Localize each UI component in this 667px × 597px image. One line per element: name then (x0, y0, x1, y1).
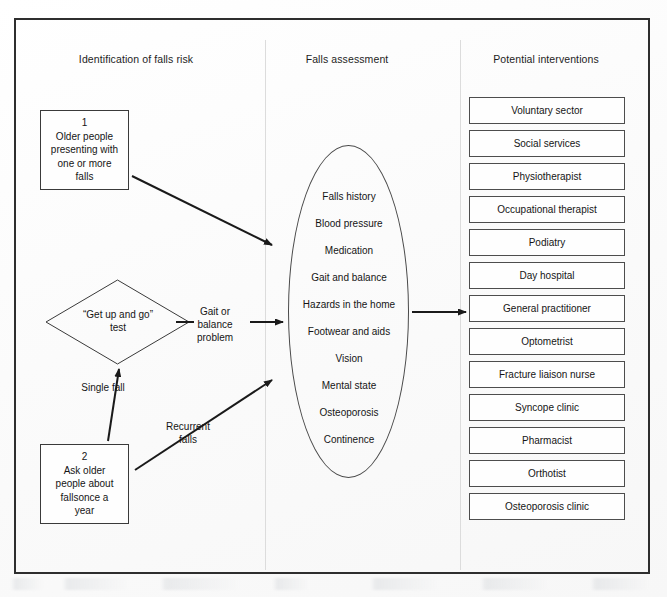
intervention-box: Social services (469, 130, 625, 157)
edge-label-gait-or-balance-problem: Gait orbalanceproblem (180, 305, 250, 344)
intervention-box: Day hospital (469, 262, 625, 289)
intervention-box: Physiotherapist (469, 163, 625, 190)
edge-label-recurrent-falls: Recurrentfalls (152, 420, 224, 446)
interventions-list: Voluntary sector Social services Physiot… (469, 97, 625, 526)
edge-label-single-fall: Single fall (60, 381, 146, 394)
assessment-item: Hazards in the home (263, 298, 435, 311)
scan-bleedthrough-artifact (10, 578, 650, 590)
intervention-box: Fracture liaison nurse (469, 361, 625, 388)
column-divider-2 (460, 40, 461, 570)
assessment-item: Continence (263, 433, 435, 446)
intervention-box: Occupational therapist (469, 196, 625, 223)
intervention-box: General practitioner (469, 295, 625, 322)
intervention-box: Voluntary sector (469, 97, 625, 124)
column-header-identification: Identification of falls risk (36, 53, 236, 65)
assessment-item: Footwear and aids (263, 325, 435, 338)
assessment-item: Falls history (263, 190, 435, 203)
intervention-box: Pharmacist (469, 427, 625, 454)
assessment-item: Medication (263, 244, 435, 257)
diamond-label: “Get up and go”test (63, 308, 173, 334)
column-header-interventions: Potential interventions (452, 53, 640, 65)
assessment-item: Osteoporosis (263, 406, 435, 419)
assessment-items-list: Falls history Blood pressure Medication … (263, 190, 435, 446)
intervention-box: Osteoporosis clinic (469, 493, 625, 520)
column-header-assessment: Falls assessment (258, 53, 436, 65)
intervention-box: Orthotist (469, 460, 625, 487)
assessment-item: Blood pressure (263, 217, 435, 230)
falls-pathway-diagram: Identification of falls risk Falls asses… (0, 0, 667, 597)
assessment-item: Vision (263, 352, 435, 365)
intervention-box: Syncope clinic (469, 394, 625, 421)
assessment-item: Gait and balance (263, 271, 435, 284)
node-get-up-and-go-test: “Get up and go”test (45, 279, 190, 365)
intervention-box: Optometrist (469, 328, 625, 355)
node-ask-older-people-about-falls: 2Ask olderpeople aboutfallsonce ayear (40, 444, 129, 524)
intervention-box: Podiatry (469, 229, 625, 256)
node-older-people-presenting: 1Older peoplepresenting withone or moref… (40, 110, 129, 190)
assessment-item: Mental state (263, 379, 435, 392)
